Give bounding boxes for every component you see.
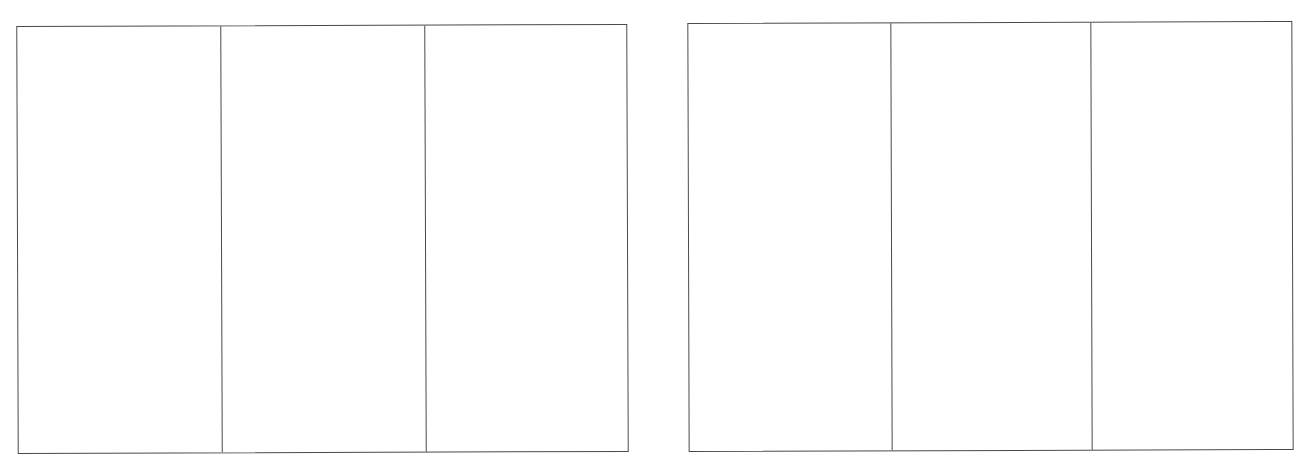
right-panel-column-3 [1090,22,1292,450]
column-content [25,34,212,35]
column-content [1099,30,1283,31]
left-panel-column-2 [220,26,425,453]
right-panel-column-2 [890,23,1091,451]
column-content [229,34,416,35]
column-content [433,33,618,34]
column-content [696,31,882,32]
left-panel-column-3 [424,25,627,452]
trifold-panel-right [687,21,1293,452]
column-content [899,31,1082,32]
trifold-panel-left [16,24,628,454]
left-panel-column-1 [17,26,221,453]
right-panel-column-1 [688,23,891,451]
